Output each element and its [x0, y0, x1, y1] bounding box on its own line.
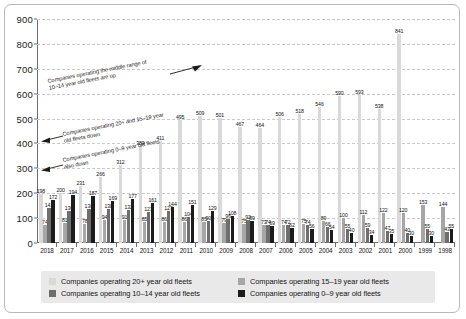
bar-group: 546896654 — [316, 19, 336, 243]
bar-value-label: 62 — [289, 222, 295, 228]
bar: 112 — [362, 215, 365, 243]
bar-value-label: 55 — [424, 223, 430, 229]
bar-group: 5098590129 — [196, 19, 216, 243]
bar-value-label: 59 — [365, 222, 371, 228]
bar: 72 — [286, 225, 289, 243]
x-axis-label: 2006 — [276, 247, 296, 254]
bar-value-label: 56 — [309, 223, 315, 229]
bar: 130 — [67, 211, 70, 243]
x-axis-label: 2010 — [196, 247, 216, 254]
bar-group: 506747262 — [276, 19, 296, 243]
bar-group: 467759289 — [236, 19, 256, 243]
legend-item[interactable]: Companies operating 0–9 year old fleets — [238, 287, 427, 299]
x-axis-label: 2004 — [316, 247, 336, 254]
bar: 141 — [47, 208, 50, 243]
bar: 92 — [246, 220, 249, 243]
bar: 501 — [218, 118, 221, 243]
bar-value-label: 112 — [359, 209, 367, 215]
bar: 100 — [342, 218, 345, 243]
bar: 79 — [222, 223, 225, 243]
bar: 74 — [43, 225, 46, 243]
x-axis-label: 2015 — [97, 247, 117, 254]
y-axis-tick-label: 700 — [17, 63, 33, 74]
x-axis-label: 1999 — [415, 247, 435, 254]
bar-value-label: 501 — [216, 112, 224, 118]
y-axis-tick-label: 0 — [28, 238, 33, 249]
x-axis-label: 2007 — [256, 247, 276, 254]
y-axis-tick-label: 300 — [17, 163, 33, 174]
bar-value-label: 538 — [375, 103, 383, 109]
bar-value-label: 509 — [196, 110, 204, 116]
bar-value-label: 464 — [256, 122, 264, 128]
bar-value-label: 231 — [76, 180, 84, 186]
legend-item[interactable]: Companies operating 20+ year old fleets — [49, 275, 238, 287]
x-axis-label: 2012 — [156, 247, 176, 254]
bar-value-label: 35 — [389, 228, 395, 234]
bar: 86 — [183, 222, 186, 243]
y-axis-tick-label: 800 — [17, 38, 33, 49]
bar-value-label: 122 — [379, 207, 387, 213]
bar-value-label: 55 — [448, 223, 454, 229]
bar-value-label: 266 — [96, 171, 104, 177]
bar: 74 — [266, 225, 269, 243]
bar: 127 — [167, 211, 170, 243]
annotation-arrow-left-icon — [41, 163, 65, 173]
bar: 96 — [226, 219, 229, 243]
bar: 187 — [91, 196, 94, 243]
bar: 411 — [159, 141, 162, 243]
bar: 136 — [87, 209, 90, 243]
bar: 86 — [163, 222, 166, 243]
bar: 123 — [147, 212, 150, 243]
bar-value-label: 518 — [295, 108, 303, 114]
bar-group: 1444355 — [435, 19, 455, 243]
x-axis-label: 2016 — [77, 247, 97, 254]
bar: 231 — [79, 186, 82, 243]
bar: 75 — [302, 224, 305, 243]
bar: 81 — [63, 223, 66, 243]
legend-swatch — [238, 278, 245, 285]
bar: 538 — [378, 109, 381, 243]
bar: 74 — [282, 225, 285, 243]
bar-group: 5381224735 — [375, 19, 395, 243]
bar-group: 8411204030 — [395, 19, 415, 243]
y-axis-tick-label: 900 — [17, 14, 33, 25]
bar: 85 — [202, 222, 205, 243]
bar: 169 — [111, 201, 114, 243]
x-axis-label: 2011 — [176, 247, 196, 254]
chart-legend: Companies operating 20+ year old fleetsC… — [41, 271, 435, 303]
bar-value-label: 40 — [349, 227, 355, 233]
bar: 104 — [187, 217, 190, 243]
bar: 590 — [338, 96, 341, 243]
bar: 161 — [151, 203, 154, 243]
x-axis-label: 2001 — [375, 247, 395, 254]
x-axis-label: 1998 — [435, 247, 455, 254]
legend-item[interactable]: Companies operating 15–19 year old fleet… — [238, 275, 427, 287]
legend-swatch — [49, 278, 56, 285]
legend-label: Companies operating 10–14 year old fleet… — [61, 289, 200, 298]
bar-value-label: 841 — [395, 28, 403, 34]
bar: 43 — [445, 232, 448, 243]
bar: 132 — [127, 210, 130, 243]
annotation-arrow-right-icon — [170, 65, 204, 77]
bar-value-label: 120 — [399, 207, 407, 213]
y-axis-tick-label: 200 — [17, 188, 33, 199]
x-axis-label: 2013 — [137, 247, 157, 254]
legend-item[interactable]: Companies operating 10–14 year old fleet… — [49, 287, 238, 299]
bar: 138 — [107, 209, 110, 243]
bar: 85 — [143, 222, 146, 243]
bar: 546 — [318, 107, 321, 243]
bar: 467 — [238, 127, 241, 243]
bar: 129 — [211, 211, 214, 243]
x-axis-label: 2002 — [356, 247, 376, 254]
bar: 90 — [207, 221, 210, 243]
x-axis-label: 2009 — [216, 247, 236, 254]
bar: 55 — [450, 229, 453, 243]
bar: 56 — [310, 229, 313, 243]
bar: 62 — [290, 228, 293, 243]
legend-swatch — [49, 290, 56, 297]
y-axis-tick-label: 100 — [17, 213, 33, 224]
bar-value-label: 153 — [419, 199, 427, 205]
bar-value-label: 198 — [37, 188, 45, 194]
bar-group: 1535530 — [415, 19, 435, 243]
legend-label: Companies operating 15–19 year old fleet… — [250, 277, 389, 286]
